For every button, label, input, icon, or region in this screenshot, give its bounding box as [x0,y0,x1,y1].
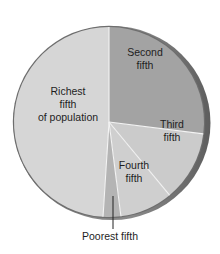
slice-label-line: of population [38,111,98,123]
pie-chart: SecondfifthThirdfifthFourthfifthPoorest … [0,0,220,254]
slice-label-poorest: Poorest fifth [82,230,138,242]
slice-label-line: Third [160,118,184,130]
slice-label-line: fifth [60,98,77,110]
slice-label-line: fifth [164,131,181,143]
slice-label-line: Poorest fifth [82,230,138,242]
slice-label-line: Fourth [119,159,150,171]
slice-label-line: Second [127,46,163,58]
slice-label-line: fifth [137,59,154,71]
pie-slice-second [109,27,204,134]
slice-label-line: fifth [126,172,143,184]
slice-label-line: Richest [50,85,85,97]
